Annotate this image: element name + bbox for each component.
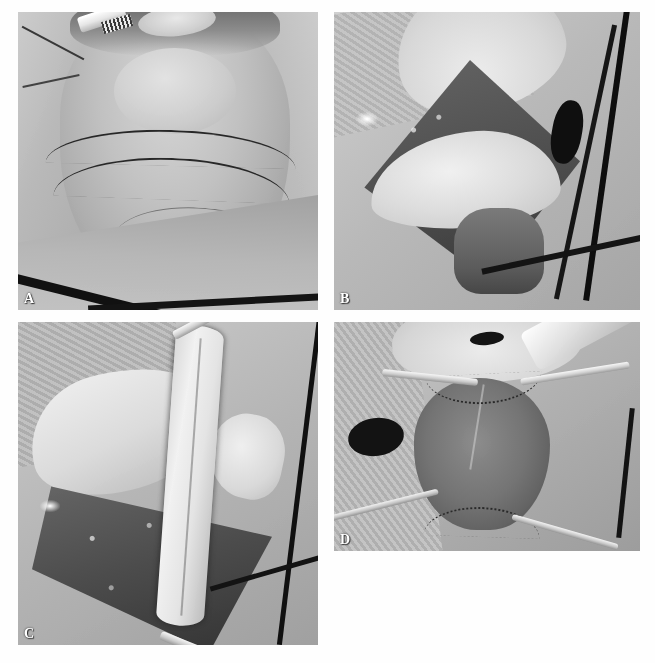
- panel-label-a: A: [24, 292, 35, 306]
- panel-label-b: B: [340, 292, 350, 306]
- figure-panel-b[interactable]: B: [334, 12, 640, 310]
- wound-highlights: [58, 502, 248, 632]
- specular-highlight: [40, 500, 60, 512]
- figure-panel-c[interactable]: C: [18, 322, 318, 645]
- figure-panel-d[interactable]: D: [334, 322, 640, 551]
- figure-panel-a[interactable]: A: [18, 12, 318, 310]
- figure-board: A B C: [0, 0, 655, 663]
- specular-highlight: [356, 112, 378, 126]
- panel-label-c: C: [24, 627, 35, 641]
- submental-bulge: [114, 48, 236, 134]
- panel-label-d: D: [340, 533, 351, 547]
- deep-muscle-layer: [454, 208, 544, 294]
